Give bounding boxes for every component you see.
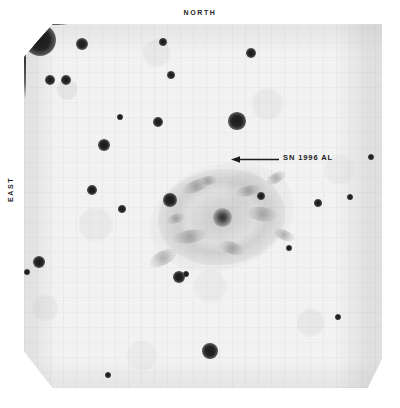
photographic-plate-wrapper (24, 24, 382, 388)
field-star (33, 256, 44, 267)
field-star (105, 372, 111, 378)
field-star (368, 154, 374, 160)
field-star (118, 205, 126, 213)
photographic-plate (24, 24, 382, 388)
field-star (347, 194, 353, 200)
field-star (61, 75, 71, 85)
field-star (335, 314, 341, 320)
field-star (117, 114, 123, 120)
field-star (76, 38, 87, 49)
field-star (24, 269, 30, 275)
field-star (202, 343, 217, 358)
field-star (159, 38, 167, 46)
field-star (163, 193, 176, 206)
field-star (45, 75, 55, 85)
field-star (314, 199, 322, 207)
field-star (153, 117, 163, 127)
galaxy-nucleus (213, 208, 232, 227)
field-star (257, 192, 265, 200)
diffraction-spike-horizontal (24, 24, 68, 25)
north-orientation-label: NORTH (0, 9, 400, 16)
diffraction-spike-vertical (24, 24, 26, 99)
supernova-label: SN 1996 AL (283, 153, 333, 162)
figure-root: NORTH EAST SN 1996 AL (0, 0, 400, 408)
field-star (183, 271, 189, 277)
east-orientation-label: EAST (7, 170, 14, 210)
field-star (286, 245, 292, 251)
field-star (87, 185, 97, 195)
field-star (246, 48, 256, 58)
field-star (228, 112, 245, 129)
field-star (167, 71, 175, 79)
field-star (98, 139, 109, 150)
